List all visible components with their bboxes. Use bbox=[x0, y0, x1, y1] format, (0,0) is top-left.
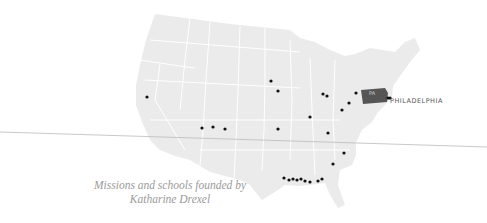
mission-marker[interactable] bbox=[269, 79, 272, 82]
mission-marker[interactable] bbox=[276, 127, 279, 130]
mission-marker[interactable] bbox=[223, 127, 226, 130]
mission-marker[interactable] bbox=[347, 101, 350, 104]
mission-marker[interactable] bbox=[331, 162, 334, 165]
mission-marker[interactable] bbox=[282, 176, 285, 179]
mission-marker[interactable] bbox=[354, 91, 357, 94]
mission-marker[interactable] bbox=[340, 108, 343, 111]
map-caption: Missions and schools founded by Katharin… bbox=[60, 178, 280, 206]
caption-line-1: Missions and schools founded by bbox=[60, 178, 280, 192]
mission-marker[interactable] bbox=[342, 151, 345, 154]
us-map: PA PHILADELPHIA Missions and schools fou… bbox=[0, 0, 487, 223]
mission-marker[interactable] bbox=[303, 179, 306, 182]
mission-marker[interactable] bbox=[316, 179, 319, 182]
mission-marker[interactable] bbox=[326, 131, 329, 134]
mission-marker[interactable] bbox=[295, 178, 298, 181]
mission-marker[interactable] bbox=[308, 180, 311, 183]
mission-marker[interactable] bbox=[145, 95, 148, 98]
mission-marker[interactable] bbox=[325, 94, 328, 97]
city-label-philadelphia: PHILADELPHIA bbox=[390, 97, 443, 105]
mission-marker[interactable] bbox=[291, 177, 294, 180]
caption-line-2: Katharine Drexel bbox=[60, 192, 280, 206]
mission-marker[interactable] bbox=[321, 92, 324, 95]
mission-marker[interactable] bbox=[320, 177, 323, 180]
mission-marker[interactable] bbox=[211, 125, 214, 128]
mission-marker[interactable] bbox=[287, 178, 290, 181]
mission-marker[interactable] bbox=[299, 177, 302, 180]
mission-marker[interactable] bbox=[308, 115, 311, 118]
mission-marker[interactable] bbox=[276, 89, 279, 92]
state-label-pa: PA bbox=[369, 90, 375, 96]
mission-marker[interactable] bbox=[200, 126, 203, 129]
